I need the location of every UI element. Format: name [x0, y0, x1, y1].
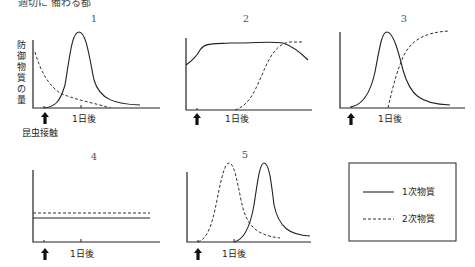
- arrow-up-icon: [41, 112, 49, 124]
- panel-number: 5: [242, 149, 248, 160]
- panel-number: 1: [91, 13, 97, 24]
- legend-secondary: 2次物質: [402, 213, 435, 224]
- panel-3: 3 1日後: [340, 13, 465, 125]
- panel-1: 1 防御物質の量 1日後 昆虫接触: [17, 13, 160, 138]
- tick-label: 1日後: [70, 248, 94, 259]
- panel-4: 4 1日後: [33, 151, 160, 260]
- panel-number: 4: [91, 151, 97, 162]
- legend: 1次物質 2次物質: [349, 163, 456, 241]
- panel-5: 5 1日後: [187, 149, 311, 260]
- contact-label: 昆虫接触: [22, 127, 58, 138]
- panel-number: 2: [243, 13, 249, 24]
- panel-2: 2 1日後: [186, 13, 312, 125]
- tick-label: 1日後: [378, 113, 402, 124]
- arrow-up-icon: [41, 248, 49, 260]
- arrow-up-icon: [347, 113, 355, 125]
- arrow-up-icon: [194, 248, 202, 260]
- y-axis-label: 防御物質の量: [17, 39, 26, 105]
- panel-number: 3: [401, 13, 407, 24]
- tick-label: 1日後: [72, 113, 96, 124]
- tick-label: 1日後: [222, 248, 246, 259]
- legend-primary: 1次物質: [402, 186, 435, 197]
- tick-label: 1日後: [225, 113, 249, 124]
- figure: 1 防御物質の量 1日後 昆虫接触 2 1日後 3 1日後 4: [0, 0, 475, 267]
- arrow-up-icon: [193, 113, 201, 125]
